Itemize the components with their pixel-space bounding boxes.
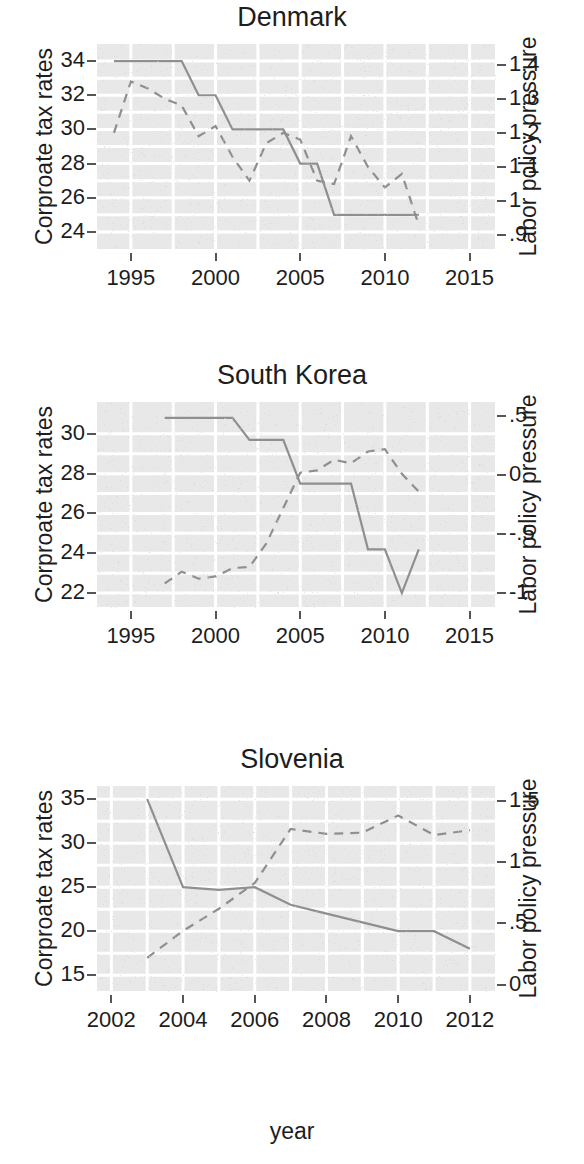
scan-noise bbox=[494, 909, 495, 910]
scan-noise bbox=[184, 811, 185, 812]
scan-noise bbox=[317, 866, 318, 867]
scan-noise bbox=[181, 128, 182, 129]
scan-noise bbox=[113, 488, 114, 489]
scan-noise bbox=[226, 455, 227, 456]
scan-noise bbox=[117, 984, 118, 985]
scan-noise bbox=[331, 208, 332, 209]
scan-noise bbox=[145, 75, 146, 76]
scan-noise bbox=[164, 415, 165, 416]
scan-noise bbox=[425, 145, 426, 146]
scan-noise bbox=[128, 208, 129, 209]
scan-noise bbox=[331, 482, 332, 483]
scan-noise bbox=[228, 865, 229, 866]
scan-noise bbox=[458, 560, 459, 561]
scan-noise bbox=[220, 403, 221, 404]
scan-noise bbox=[149, 794, 150, 795]
x-tick-label: 2010 bbox=[340, 265, 430, 291]
scan-noise bbox=[273, 864, 274, 865]
scan-noise bbox=[359, 944, 360, 945]
scan-noise bbox=[183, 975, 184, 976]
scan-noise bbox=[442, 494, 443, 495]
scan-noise bbox=[334, 935, 335, 936]
scan-noise bbox=[213, 898, 214, 899]
scan-noise bbox=[475, 413, 476, 414]
scan-noise bbox=[351, 143, 352, 144]
scan-noise bbox=[163, 434, 164, 435]
scan-noise bbox=[210, 409, 211, 410]
scan-noise bbox=[418, 143, 419, 144]
scan-noise bbox=[281, 917, 282, 918]
scan-noise bbox=[273, 50, 274, 51]
scan-noise bbox=[354, 979, 355, 980]
scan-noise bbox=[225, 219, 226, 220]
scan-noise bbox=[468, 112, 469, 113]
scan-noise bbox=[320, 934, 321, 935]
scan-noise bbox=[120, 975, 121, 976]
y-tick-mark-left bbox=[87, 231, 96, 233]
scan-noise bbox=[200, 584, 201, 585]
scan-noise bbox=[461, 892, 462, 893]
scan-noise bbox=[175, 916, 176, 917]
scan-noise bbox=[232, 576, 233, 577]
scan-noise bbox=[467, 453, 468, 454]
scan-noise bbox=[405, 529, 406, 530]
scan-noise bbox=[371, 570, 372, 571]
scan-noise bbox=[285, 95, 286, 96]
scan-noise bbox=[155, 982, 156, 983]
scan-noise bbox=[153, 232, 154, 233]
scan-noise bbox=[235, 586, 236, 587]
scan-noise bbox=[342, 831, 343, 832]
scan-noise bbox=[331, 475, 332, 476]
scan-noise bbox=[238, 241, 239, 242]
scan-noise bbox=[401, 70, 402, 71]
scan-noise bbox=[391, 894, 392, 895]
scan-noise bbox=[483, 924, 484, 925]
scan-noise bbox=[388, 814, 389, 815]
scan-noise bbox=[360, 60, 361, 61]
scan-noise bbox=[182, 928, 183, 929]
scan-noise bbox=[375, 901, 376, 902]
scan-noise bbox=[442, 789, 443, 790]
scan-noise bbox=[139, 540, 140, 541]
scan-noise bbox=[405, 240, 406, 241]
scan-noise bbox=[390, 527, 391, 528]
scan-noise bbox=[317, 49, 318, 50]
scan-noise bbox=[294, 868, 295, 869]
scan-noise bbox=[179, 216, 180, 217]
scan-noise bbox=[487, 175, 488, 176]
scan-noise bbox=[486, 564, 487, 565]
scan-noise bbox=[334, 130, 335, 131]
scan-noise bbox=[239, 510, 240, 511]
scan-noise bbox=[278, 523, 279, 524]
scan-noise bbox=[131, 219, 132, 220]
scan-noise bbox=[151, 939, 152, 940]
scan-noise bbox=[160, 436, 161, 437]
scan-noise bbox=[493, 204, 494, 205]
scan-noise bbox=[366, 206, 367, 207]
scan-noise bbox=[383, 415, 384, 416]
scan-noise bbox=[263, 918, 264, 919]
scan-noise bbox=[453, 52, 454, 53]
scan-noise bbox=[300, 586, 301, 587]
scan-noise bbox=[397, 451, 398, 452]
scan-noise bbox=[303, 51, 304, 52]
scan-noise bbox=[459, 606, 460, 607]
scan-noise bbox=[154, 905, 155, 906]
scan-noise bbox=[478, 834, 479, 835]
scan-noise bbox=[206, 58, 207, 59]
scan-noise bbox=[171, 571, 172, 572]
scan-noise bbox=[486, 45, 487, 46]
scan-noise bbox=[306, 456, 307, 457]
x-tick-mark bbox=[215, 611, 217, 619]
scan-noise bbox=[351, 791, 352, 792]
scan-noise bbox=[356, 137, 357, 138]
scan-noise bbox=[148, 589, 149, 590]
scan-noise bbox=[253, 181, 254, 182]
scan-noise bbox=[162, 523, 163, 524]
scan-noise bbox=[145, 436, 146, 437]
scan-noise bbox=[403, 461, 404, 462]
scan-noise bbox=[396, 130, 397, 131]
scan-noise bbox=[224, 424, 225, 425]
scan-noise bbox=[130, 120, 131, 121]
scan-noise bbox=[395, 831, 396, 832]
